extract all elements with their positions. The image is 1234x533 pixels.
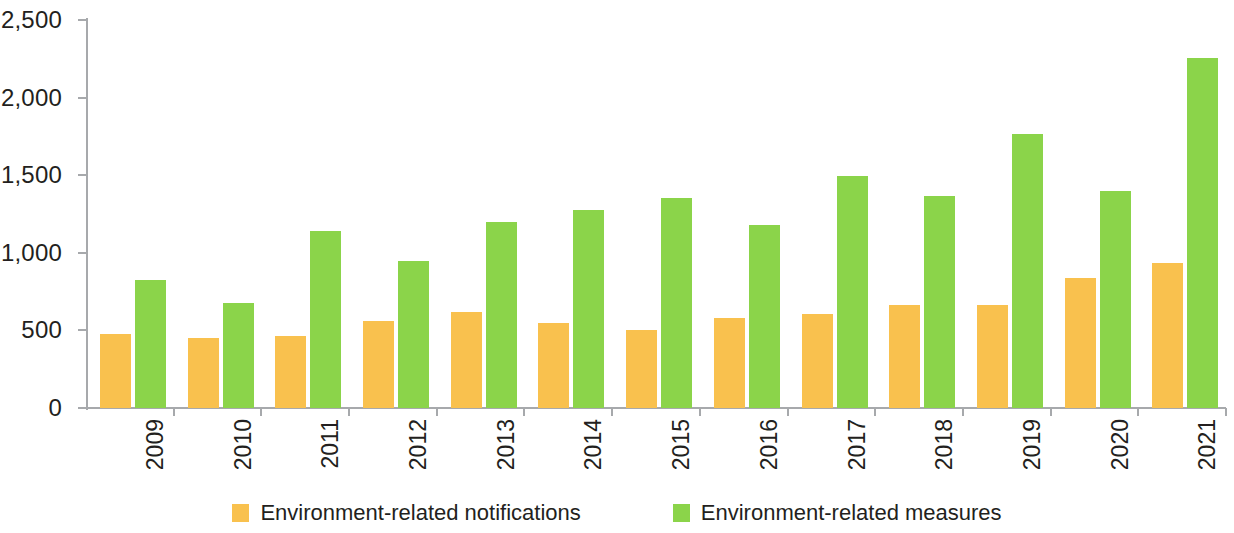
plot-area xyxy=(86,20,1226,408)
x-axis-label-2021: 2021 xyxy=(1196,419,1219,509)
bar-notifications-2014 xyxy=(538,323,569,408)
bar-measures-2018 xyxy=(924,196,955,408)
x-axis-tick xyxy=(523,408,525,416)
legend-swatch-icon xyxy=(673,504,690,522)
x-axis-tick xyxy=(1137,408,1139,416)
bar-group xyxy=(1152,20,1218,408)
y-axis-tick-label: 2,000 xyxy=(0,86,62,110)
x-axis-label-2020: 2020 xyxy=(1109,419,1132,509)
x-axis-tick xyxy=(962,408,964,416)
bar-notifications-2020 xyxy=(1065,278,1096,408)
y-axis-tick-label: 0 xyxy=(0,396,62,420)
bar-notifications-2010 xyxy=(188,338,219,408)
x-axis-label-2010: 2010 xyxy=(232,419,255,509)
bar-measures-2011 xyxy=(310,231,341,408)
legend-item-notifications[interactable]: Environment-related notifications xyxy=(232,502,580,524)
bar-measures-2015 xyxy=(661,198,692,408)
x-axis-label-2017: 2017 xyxy=(846,419,869,509)
x-axis-label-2014: 2014 xyxy=(582,419,605,509)
x-axis-tick xyxy=(1050,408,1052,416)
x-axis-tick xyxy=(787,408,789,416)
x-axis-tick xyxy=(874,408,876,416)
bar-notifications-2019 xyxy=(977,305,1008,408)
x-axis-label-2011: 2011 xyxy=(319,419,342,509)
bar-group xyxy=(100,20,166,408)
chart-legend: Environment-related notificationsEnviron… xyxy=(0,502,1234,524)
bar-measures-2010 xyxy=(223,303,254,408)
bar-measures-2020 xyxy=(1100,191,1131,408)
x-axis-tick xyxy=(173,408,175,416)
bar-measures-2019 xyxy=(1012,134,1043,408)
x-axis-label-2015: 2015 xyxy=(670,419,693,509)
bar-measures-2009 xyxy=(135,280,166,408)
bar-measures-2012 xyxy=(398,261,429,408)
bar-measures-2013 xyxy=(486,222,517,408)
bar-measures-2014 xyxy=(573,210,604,408)
bar-notifications-2021 xyxy=(1152,263,1183,408)
x-axis-label-2018: 2018 xyxy=(933,419,956,509)
x-axis-label-2013: 2013 xyxy=(495,419,518,509)
legend-swatch-icon xyxy=(232,504,249,522)
bar-notifications-2017 xyxy=(802,314,833,408)
bar-notifications-2016 xyxy=(714,318,745,408)
bar-group xyxy=(538,20,604,408)
bar-group xyxy=(363,20,429,408)
bar-group xyxy=(451,20,517,408)
x-axis-label-2019: 2019 xyxy=(1021,419,1044,509)
x-axis-tick xyxy=(436,408,438,416)
bar-chart: 2,5002,0001,5001,0005000 200920102011201… xyxy=(0,0,1234,533)
x-axis-tick xyxy=(611,408,613,416)
x-axis-tick xyxy=(348,408,350,416)
x-axis-label-2012: 2012 xyxy=(407,419,430,509)
y-axis-tick-label: 2,500 xyxy=(0,8,62,32)
bar-notifications-2011 xyxy=(275,336,306,408)
bar-notifications-2015 xyxy=(626,330,657,408)
bar-notifications-2018 xyxy=(889,305,920,408)
bar-group xyxy=(714,20,780,408)
legend-item-measures[interactable]: Environment-related measures xyxy=(673,502,1002,524)
x-axis-tick xyxy=(699,408,701,416)
bar-group xyxy=(977,20,1043,408)
y-axis-tick-label: 500 xyxy=(0,318,62,342)
x-axis-tick xyxy=(260,408,262,416)
bar-measures-2016 xyxy=(749,225,780,408)
bar-notifications-2013 xyxy=(451,312,482,408)
bar-measures-2021 xyxy=(1187,58,1218,408)
bar-group xyxy=(188,20,254,408)
legend-label: Environment-related notifications xyxy=(260,502,580,524)
bar-group xyxy=(1065,20,1131,408)
bar-measures-2017 xyxy=(837,176,868,408)
bar-notifications-2009 xyxy=(100,334,131,408)
bar-group xyxy=(275,20,341,408)
x-axis-label-2009: 2009 xyxy=(144,419,167,509)
x-axis-tick xyxy=(1225,408,1227,416)
bar-group xyxy=(626,20,692,408)
x-axis-label-2016: 2016 xyxy=(758,419,781,509)
legend-label: Environment-related measures xyxy=(701,502,1002,524)
bar-group xyxy=(889,20,955,408)
bar-notifications-2012 xyxy=(363,321,394,408)
y-axis-tick-label: 1,000 xyxy=(0,241,62,265)
bar-group xyxy=(802,20,868,408)
y-axis-tick-label: 1,500 xyxy=(0,163,62,187)
